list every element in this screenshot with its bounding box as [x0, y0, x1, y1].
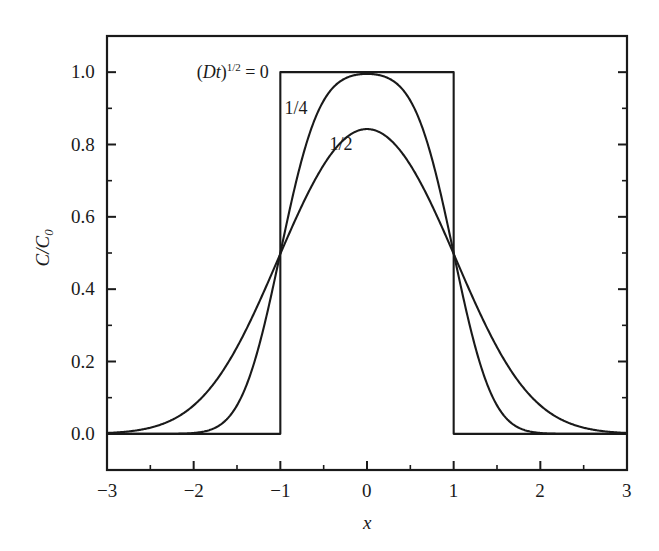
- y-tick-label-4: 0.8: [71, 134, 95, 156]
- annotation-sqrt-Dt-zero: (Dt)1/2 = 0: [197, 61, 269, 83]
- y-tick-label-1: 0.2: [71, 351, 95, 373]
- x-tick-label-0: −3: [97, 480, 117, 502]
- annotation-half: 1/2: [330, 134, 353, 155]
- diffusion-profile-chart: −3−2−101230.00.20.40.60.81.0xC/C0(Dt)1/2…: [0, 0, 659, 551]
- y-tick-label-5: 1.0: [71, 61, 95, 83]
- x-tick-label-2: −1: [270, 480, 290, 502]
- y-tick-label-3: 0.6: [71, 206, 95, 228]
- x-tick-label-4: 1: [449, 480, 459, 502]
- x-tick-label-6: 3: [622, 480, 632, 502]
- x-tick-label-5: 2: [535, 480, 545, 502]
- x-tick-label-3: 0: [362, 480, 372, 502]
- x-axis-title: x: [363, 512, 371, 534]
- x-tick-label-1: −2: [184, 480, 204, 502]
- plot-canvas: [0, 0, 659, 551]
- annotation-quarter: 1/4: [284, 98, 307, 119]
- y-axis-title: C/C0: [31, 229, 57, 266]
- y-tick-label-2: 0.4: [71, 278, 95, 300]
- plot-frame: [107, 36, 627, 470]
- y-tick-label-0: 0.0: [71, 423, 95, 445]
